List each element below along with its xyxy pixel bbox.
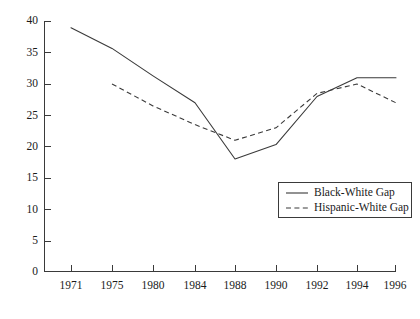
y-tick-label-5: 5 (8, 235, 38, 247)
series-line-black-white-gap (71, 28, 396, 159)
y-tick-label-40: 40 (8, 15, 38, 27)
axes (45, 21, 397, 272)
x-tick-label-1994: 1994 (346, 280, 369, 292)
y-tick-label-30: 30 (8, 78, 38, 90)
y-axis-ticks (45, 22, 52, 272)
y-tick-label-10: 10 (8, 204, 38, 216)
x-tick-label-1996: 1996 (384, 280, 407, 292)
legend-label-hispanic-white-gap: Hispanic-White Gap (314, 202, 409, 214)
x-tick-label-1988: 1988 (224, 280, 247, 292)
x-tick-label-1992: 1992 (306, 280, 329, 292)
series-line-hispanic-white-gap (112, 84, 396, 140)
y-tick-label-35: 35 (8, 47, 38, 59)
plot-area (0, 0, 420, 319)
legend-label-black-white-gap: Black-White Gap (314, 187, 395, 199)
y-tick-label-0: 0 (8, 266, 38, 278)
x-tick-label-1984: 1984 (184, 280, 207, 292)
y-tick-label-15: 15 (8, 173, 38, 185)
x-tick-label-1980: 1980 (142, 280, 165, 292)
chart-legend: Black-White Gap Hispanic-White Gap (278, 182, 412, 218)
x-tick-label-1975: 1975 (101, 280, 124, 292)
y-tick-label-20: 20 (8, 141, 38, 153)
y-tick-label-25: 25 (8, 110, 38, 122)
line-chart: 40 35 30 25 20 15 10 5 0 1971 1975 1980 … (0, 0, 420, 319)
legend-item-black-white-gap: Black-White Gap (285, 185, 395, 201)
x-axis-ticks (72, 265, 396, 272)
legend-item-hispanic-white-gap: Hispanic-White Gap (285, 200, 409, 216)
legend-dashed-line-icon (285, 203, 309, 213)
legend-solid-line-icon (285, 188, 309, 198)
x-tick-label-1971: 1971 (60, 280, 83, 292)
x-tick-label-1990: 1990 (265, 280, 288, 292)
